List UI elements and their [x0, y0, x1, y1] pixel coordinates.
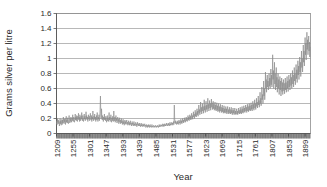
- y-axis-tick-labels: 00.20.40.60.811.21.41.6: [40, 9, 52, 138]
- x-axis-title: Year: [173, 171, 192, 182]
- x-axis-tick-label: 1669: [218, 139, 227, 157]
- x-axis-tick-label: 1577: [185, 139, 194, 157]
- y-axis-tick-label: 0: [47, 129, 52, 138]
- y-axis-title: Grams silver per litre: [3, 29, 14, 117]
- x-axis-tick-label: 1715: [235, 139, 244, 157]
- y-axis-tick-label: 0.4: [40, 99, 52, 108]
- y-axis-tick-label: 0.6: [40, 84, 52, 93]
- y-axis-tick-label: 0.8: [40, 69, 52, 78]
- y-axis-tick-label: 0.2: [40, 114, 52, 123]
- x-axis-tick-label: 1807: [268, 139, 277, 157]
- x-axis-tick-label: 1255: [69, 139, 78, 157]
- series-line: [57, 32, 311, 127]
- y-axis-tick-label: 1.2: [40, 39, 52, 48]
- y-axis-tick-label: 1.4: [40, 24, 52, 33]
- x-axis-tick-label: 1301: [86, 139, 95, 157]
- x-axis-tick-label: 1439: [135, 139, 144, 157]
- y-axis-tick-label: 1: [47, 54, 52, 63]
- x-axis-tick-label: 1899: [301, 139, 310, 157]
- x-axis-tick-label: 1209: [53, 139, 62, 157]
- x-axis-tick-label: 1531: [169, 139, 178, 157]
- y-axis-tick-label: 1.6: [40, 9, 52, 18]
- x-axis-tick-label: 1485: [152, 139, 161, 157]
- x-axis-tick-label: 1347: [102, 139, 111, 157]
- x-axis-tick-labels: 1209125513011347139314391485153115771623…: [53, 139, 311, 157]
- data-series: [57, 32, 311, 127]
- line-chart: 00.20.40.60.811.21.41.6 1209125513011347…: [0, 0, 327, 187]
- x-axis-tick-label: 1853: [285, 139, 294, 157]
- x-axis-tick-label: 1623: [202, 139, 211, 157]
- x-axis-tick-label: 1761: [251, 139, 260, 157]
- x-axis-tick-label: 1393: [119, 139, 128, 157]
- chart-figure: 00.20.40.60.811.21.41.6 1209125513011347…: [0, 0, 327, 187]
- x-axis-minor-ticks: [57, 134, 311, 139]
